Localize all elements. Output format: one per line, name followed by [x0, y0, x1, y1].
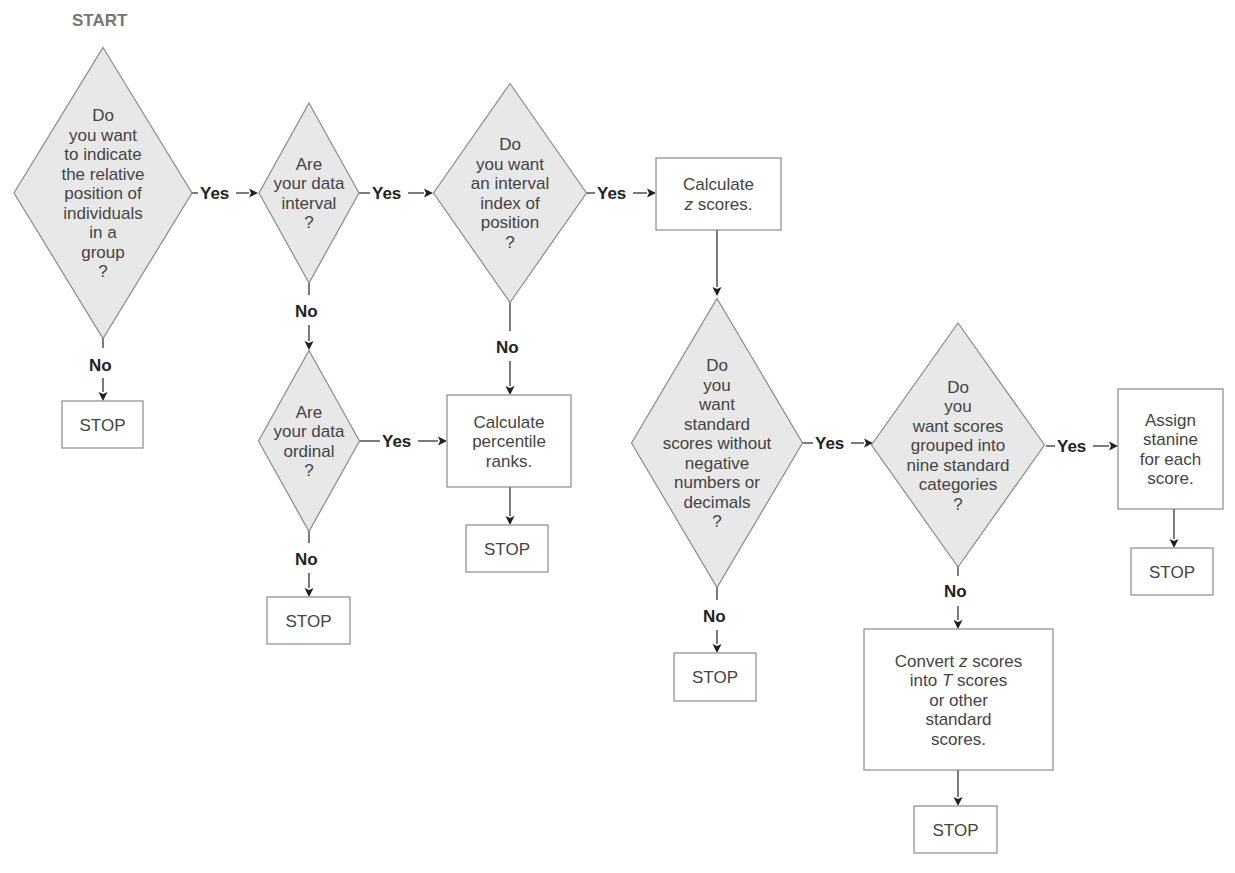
process-node: Assignstaninefor eachscore.	[1118, 389, 1223, 509]
stop-node: STOP	[1131, 548, 1213, 595]
process-node: Calculatez scores.	[656, 158, 781, 230]
stop-node: STOP	[62, 401, 143, 448]
nodes-layer: Doyou wantto indicatethe relativepositio…	[14, 48, 1223, 854]
stop-node: STOP	[466, 525, 548, 572]
flowchart-canvas: START Doyou wantto indicatethe relativep…	[0, 0, 1235, 873]
decision-node: Areyour dataordinal?	[259, 351, 360, 532]
no-label: No	[703, 607, 726, 626]
yes-label: Yes	[1057, 437, 1086, 456]
no-label: No	[496, 338, 519, 357]
connector-arrow	[1170, 509, 1179, 548]
connector-arrow	[954, 770, 963, 806]
decision-node: Areyour datainterval?	[259, 103, 359, 283]
decision-node: Doyouwant scoresgrouped intonine standar…	[872, 323, 1045, 567]
no-label: No	[295, 302, 318, 321]
node-text: STOP	[1149, 563, 1195, 582]
connector-arrow	[506, 487, 515, 525]
node-text: Assignstaninefor eachscore.	[1140, 411, 1201, 489]
yes-label: Yes	[200, 184, 229, 203]
stop-node: STOP	[267, 597, 350, 644]
yes-label: Yes	[382, 432, 411, 451]
node-text: STOP	[484, 540, 530, 559]
stop-node: STOP	[674, 653, 756, 701]
no-label: No	[295, 550, 318, 569]
yes-label: Yes	[372, 184, 401, 203]
connector-arrow	[713, 230, 722, 296]
no-label: No	[89, 356, 112, 375]
stop-node: STOP	[914, 806, 997, 853]
node-text: STOP	[80, 416, 126, 435]
yes-label: Yes	[597, 184, 626, 203]
node-text: STOP	[692, 668, 738, 687]
decision-node: Doyouwantstandardscores withoutnegativen…	[632, 299, 803, 588]
no-label: No	[944, 582, 967, 601]
process-node: Calculatepercentileranks.	[447, 395, 571, 487]
decision-node: Doyou wantto indicatethe relativepositio…	[14, 48, 192, 339]
node-text: STOP	[933, 821, 979, 840]
node-text: STOP	[286, 612, 332, 631]
yes-label: Yes	[815, 434, 844, 453]
node-text: Calculatez scores.	[683, 175, 754, 214]
start-text: START	[72, 11, 128, 30]
process-node: Convert z scoresinto T scoresor othersta…	[864, 629, 1053, 770]
decision-node: Doyou wantan intervalindex ofposition?	[434, 84, 587, 303]
